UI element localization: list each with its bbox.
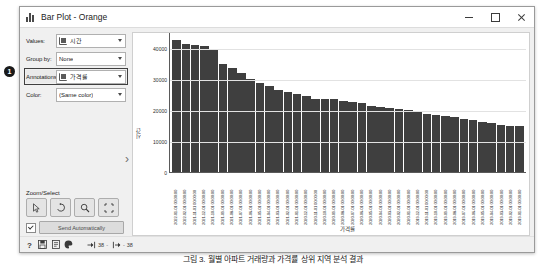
maximize-button[interactable]: [482, 7, 508, 27]
bar[interactable]: [284, 92, 293, 173]
y-axis-tick-label: 30000: [153, 77, 167, 83]
x-axis-tick: 2020-06-01 00:00:00: [357, 173, 366, 225]
annotations-combobox[interactable]: 가격률: [56, 70, 126, 84]
help-icon[interactable]: ?: [25, 240, 34, 250]
x-axis-tick-label: 2020-04-01 00:00:00: [378, 173, 383, 225]
x-axis-tick: 2020-12-01 00:00:00: [301, 173, 310, 225]
x-axis-tick: 2019-09-01 00:00:00: [441, 173, 450, 225]
grid-line: [170, 111, 526, 112]
cursor-arrow-icon: [32, 203, 41, 213]
bar[interactable]: [469, 120, 478, 174]
chart-canvas[interactable]: [169, 33, 526, 173]
bar[interactable]: [200, 46, 209, 173]
window-title: Bar Plot - Orange: [41, 12, 107, 22]
variable-icon: [59, 73, 67, 81]
x-axis-tick-label: 2021-07-01 00:00:00: [238, 173, 243, 225]
x-axis-tick: 2021-02-01 00:00:00: [283, 173, 292, 225]
zoom-tool-button[interactable]: [74, 198, 95, 217]
group-by-combobox[interactable]: None: [56, 52, 126, 66]
bar[interactable]: [367, 106, 376, 173]
x-axis-tick-label: 2020-12-01 00:00:00: [303, 173, 308, 225]
x-axis-tick-label: 2020-01-01 00:00:00: [406, 173, 411, 225]
bar[interactable]: [506, 126, 515, 173]
bar[interactable]: [182, 44, 191, 173]
bar[interactable]: [515, 126, 524, 173]
x-axis-tick: 2021-01-01 00:00:00: [292, 173, 301, 225]
bar-chart-icon: [26, 13, 37, 22]
x-axis-tick-label: 2021-10-01 00:00:00: [210, 173, 215, 225]
bar[interactable]: [274, 90, 283, 173]
bar[interactable]: [450, 117, 459, 173]
bar[interactable]: [172, 40, 181, 173]
x-axis-tick: 2021-10-01 00:00:00: [208, 173, 217, 225]
x-axis-tick: 2020-11-01 00:00:00: [310, 173, 319, 225]
x-axis-tick-label: 2019-02-01 00:00:00: [508, 173, 513, 225]
bar[interactable]: [348, 102, 357, 173]
report-icon[interactable]: [51, 240, 60, 250]
x-axis-tick-label: 2020-11-01 00:00:00: [313, 173, 318, 225]
close-button[interactable]: [508, 7, 534, 27]
bar[interactable]: [460, 119, 469, 173]
x-axis-tick: 2021-12-01 00:00:00: [199, 173, 208, 225]
output-group: - 38: [112, 241, 133, 249]
bar[interactable]: [265, 86, 274, 173]
bar[interactable]: [423, 114, 432, 173]
select-tool-button[interactable]: [26, 198, 47, 217]
group-by-value: None: [59, 56, 73, 62]
send-automatically-button[interactable]: Send Automatically: [39, 221, 124, 234]
bar[interactable]: [237, 73, 246, 173]
chart-zone: 010000200003000040000: [143, 33, 526, 173]
x-axis-tick-label: 2021-08-01 00:00:00: [229, 173, 234, 225]
minimize-button[interactable]: [456, 7, 482, 27]
bar[interactable]: [376, 107, 385, 173]
x-axis-tick-label: 2019-12-01 00:00:00: [415, 173, 420, 225]
bar[interactable]: [302, 96, 311, 173]
x-axis-tick-label: 2019-04-01 00:00:00: [489, 173, 494, 225]
y-axis-title: 시간: [133, 33, 143, 235]
x-axis-tick-label: 2019-08-01 00:00:00: [452, 173, 457, 225]
bar[interactable]: [358, 103, 367, 173]
bar[interactable]: [293, 94, 302, 173]
bar[interactable]: [246, 79, 255, 173]
x-axis-tick: 2020-09-01 00:00:00: [329, 173, 338, 225]
zoom-select-title: Zoom/Select: [26, 190, 124, 196]
pan-tool-button[interactable]: [50, 198, 71, 217]
bar[interactable]: [432, 115, 441, 173]
x-axis-tick: 2022-01-01 00:00:00: [171, 173, 180, 225]
x-axis-tick: 2020-01-01 00:00:00: [403, 173, 412, 225]
bar[interactable]: [385, 108, 394, 173]
chevron-right-icon[interactable]: ›: [125, 153, 129, 165]
bar[interactable]: [441, 116, 450, 173]
bar[interactable]: [191, 45, 200, 173]
x-axis-tick-label: 2019-06-01 00:00:00: [471, 173, 476, 225]
x-axis-tick-label: 2019-01-01 00:00:00: [517, 173, 522, 225]
save-icon[interactable]: [38, 240, 47, 250]
color-combobox[interactable]: (Same color): [56, 88, 126, 102]
window-title-bar[interactable]: Bar Plot - Orange: [20, 7, 534, 28]
x-axis-tick: 2021-06-01 00:00:00: [245, 173, 254, 225]
x-axis-tick: 2019-01-01 00:00:00: [515, 173, 524, 225]
x-axis-tick: 2021-07-01 00:00:00: [236, 173, 245, 225]
x-axis-tick-label: 2019-11-01 00:00:00: [424, 173, 429, 225]
reset-tool-button[interactable]: [98, 198, 119, 217]
bar[interactable]: [478, 122, 487, 173]
bar-plot-window: Bar Plot - Orange Values: 시간 Gr: [19, 6, 535, 253]
values-value: 시간: [70, 36, 82, 45]
bar[interactable]: [256, 83, 265, 173]
x-axis-tick: 2022-02-01 00:00:00: [180, 173, 189, 225]
y-axis-tick-label: 10000: [153, 139, 167, 145]
bar[interactable]: [497, 125, 506, 173]
x-axis-tick: 2019-02-01 00:00:00: [506, 173, 515, 225]
x-axis-tick: 2019-08-01 00:00:00: [450, 173, 459, 225]
bar[interactable]: [228, 68, 237, 173]
x-axis-tick-label: 2020-08-01 00:00:00: [340, 173, 345, 225]
zoom-select-buttons: [26, 198, 124, 217]
bar[interactable]: [487, 123, 496, 173]
y-axis-ticks: 010000200003000040000: [143, 33, 169, 173]
annotations-value: 가격률: [70, 72, 88, 81]
send-automatically-checkbox[interactable]: [26, 223, 36, 233]
palette-icon[interactable]: [64, 240, 73, 250]
color-label: Color:: [26, 92, 56, 98]
x-axis-tick-label: 2021-04-01 00:00:00: [266, 173, 271, 225]
values-combobox[interactable]: 시간: [56, 34, 126, 48]
